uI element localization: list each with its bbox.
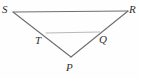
vertex-label-Q: Q: [99, 34, 107, 45]
vertex-label-T: T: [35, 35, 41, 46]
vertex-label-S: S: [2, 4, 8, 15]
vertex-label-R: R: [129, 4, 136, 15]
segment-SR: [13, 11, 128, 12]
vertex-label-P: P: [66, 62, 73, 73]
segment-TQ: [46, 32, 100, 33]
geometry-figure: S R T Q P: [0, 0, 141, 78]
segment-SP: [13, 12, 71, 57]
